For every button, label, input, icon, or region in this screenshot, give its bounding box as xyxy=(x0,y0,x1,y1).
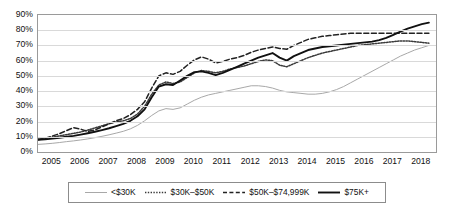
y-axis-tick-label: 0% xyxy=(0,147,33,156)
gridline xyxy=(38,45,436,46)
y-axis-labels: 0%10%20%30%40%50%60%70%80%90% xyxy=(0,14,34,153)
x-axis-labels: 2005200620072008200920102011201220132014… xyxy=(37,157,437,173)
y-axis-tick-label: 60% xyxy=(0,56,33,65)
legend-swatch-2 xyxy=(223,188,245,197)
y-axis-tick-label: 50% xyxy=(0,71,33,80)
x-axis-tick-label: 2005 xyxy=(42,157,61,166)
legend-swatch-3 xyxy=(318,188,340,197)
y-axis-tick-label: 70% xyxy=(0,40,33,49)
chart-legend: <$30K$30K–$50K$50K–$74,999K$75K+ xyxy=(68,182,386,203)
gridline xyxy=(38,76,436,77)
gridline xyxy=(38,61,436,62)
x-axis-tick-label: 2007 xyxy=(99,157,118,166)
legend-item[interactable]: $50K–$74,999K xyxy=(223,188,309,197)
x-axis-tick-label: 2016 xyxy=(354,157,373,166)
x-axis-tick-label: 2010 xyxy=(184,157,203,166)
gridline xyxy=(38,122,436,123)
legend-swatch-0 xyxy=(85,188,107,197)
y-axis-tick-label: 20% xyxy=(0,117,33,126)
y-axis-tick-label: 30% xyxy=(0,101,33,110)
x-axis-tick-label: 2014 xyxy=(298,157,317,166)
y-axis-tick-label: 80% xyxy=(0,25,33,34)
x-axis-tick-label: 2015 xyxy=(326,157,345,166)
x-axis-tick-label: 2012 xyxy=(241,157,260,166)
y-axis-tick-label: 10% xyxy=(0,132,33,141)
gridline xyxy=(38,137,436,138)
line-chart: 0%10%20%30%40%50%60%70%80%90% 2005200620… xyxy=(0,0,453,212)
x-axis-tick-label: 2011 xyxy=(213,157,231,166)
y-axis-tick-label: 40% xyxy=(0,86,33,95)
x-axis-tick-label: 2009 xyxy=(155,157,174,166)
legend-label: $50K–$74,999K xyxy=(249,188,309,196)
legend-swatch-1 xyxy=(145,188,167,197)
x-axis-tick-label: 2008 xyxy=(127,157,146,166)
gridline xyxy=(38,91,436,92)
x-axis-tick-label: 2013 xyxy=(269,157,288,166)
legend-label: $30K–$50K xyxy=(171,188,215,196)
legend-item[interactable]: $75K+ xyxy=(318,188,368,197)
legend-label: $75K+ xyxy=(344,188,368,196)
gridline xyxy=(38,30,436,31)
x-axis-tick-label: 2006 xyxy=(70,157,89,166)
series-layer xyxy=(38,15,436,152)
plot-area xyxy=(37,14,437,153)
series-line-2 xyxy=(38,33,429,140)
legend-item[interactable]: $30K–$50K xyxy=(145,188,215,197)
legend-item[interactable]: <$30K xyxy=(85,188,135,197)
y-axis-tick-label: 90% xyxy=(0,10,33,19)
legend-label: <$30K xyxy=(111,188,135,196)
x-axis-tick-label: 2018 xyxy=(411,157,430,166)
x-axis-tick-label: 2017 xyxy=(383,157,402,166)
gridline xyxy=(38,106,436,107)
